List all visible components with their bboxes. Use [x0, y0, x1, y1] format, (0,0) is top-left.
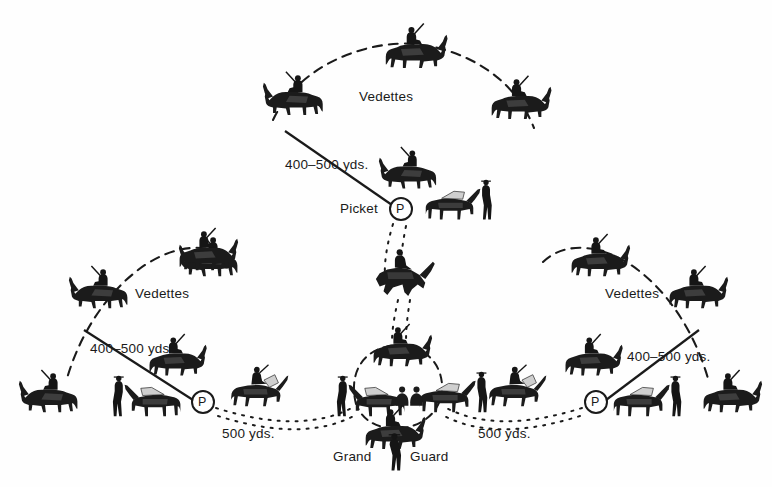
label-guard: Guard: [410, 450, 449, 464]
label-vedettes-right: Vedettes: [605, 287, 659, 301]
picket-right-led-horse: [614, 376, 682, 417]
vedette-top-center: [386, 23, 448, 68]
picket-top-rider: [379, 147, 436, 188]
label-vedettes-top: Vedettes: [359, 90, 413, 104]
vedette-right-lower: [704, 370, 763, 412]
label-grand: Grand: [333, 450, 372, 464]
vedette-right-upper: [572, 234, 631, 276]
picket-marker-left-letter: P: [198, 396, 207, 409]
picket-top-led-horse: [426, 180, 492, 220]
patrol-right: [489, 365, 547, 406]
diagram-canvas: [0, 0, 772, 487]
outpost-diagram: Vedettes 400–500 yds. Picket P Vedettes …: [0, 0, 772, 487]
vedette-right-mid: [670, 266, 729, 308]
label-distance-bottom-right: 500 yds.: [478, 427, 531, 441]
vedette-top-right: [492, 76, 552, 119]
label-distance-left: 400–500 yds.: [90, 342, 173, 356]
picket-marker-right-letter: P: [591, 396, 600, 409]
picket-left-led-horse: [113, 376, 181, 417]
grand-guard-left-horse: [337, 376, 405, 417]
grand-guard-top-rider: [374, 324, 433, 366]
picket-marker-top-letter: P: [396, 203, 405, 216]
picket-right-rider: [566, 334, 623, 375]
grand-guard-right-horse: [420, 372, 488, 413]
courier-center: [376, 249, 435, 296]
label-distance-top: 400–500 yds.: [285, 158, 368, 172]
vedette-left-lower: [19, 370, 78, 412]
label-picket: Picket: [340, 202, 378, 216]
patrol-left: [231, 365, 289, 406]
grand-guard-seated: [396, 387, 423, 406]
label-distance-bottom-left: 500 yds.: [222, 427, 275, 441]
vedette-top-left: [263, 72, 323, 115]
label-distance-right: 400–500 yds.: [627, 350, 710, 364]
label-vedettes-left: Vedettes: [135, 287, 189, 301]
